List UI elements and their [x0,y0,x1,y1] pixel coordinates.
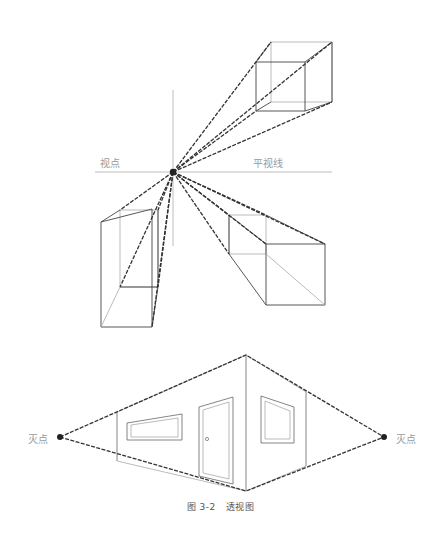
cube-upper-right [256,42,332,111]
perspective-figure: 视点 平视线 灭点 灭点 图 3-2透视图 [0,0,441,546]
viewpoint-dot [170,169,176,175]
door-knob-icon [205,437,208,440]
figure-caption: 图 3-2透视图 [0,500,441,513]
viewpoint-label: 视点 [100,155,120,170]
diagram-canvas [0,0,441,546]
bottom-vanishing-lines [60,437,384,491]
box-lower-left [101,209,158,327]
projector-line [120,172,173,210]
top-vanishing-lines [60,355,384,437]
right-vanishing-point-label: 灭点 [396,431,416,446]
right-window [261,396,294,443]
horizon-line-label: 平视线 [253,155,283,170]
figure-title: 透视图 [226,502,255,512]
left-vanishing-point-dot [57,434,63,440]
left-vanishing-point-label: 灭点 [28,431,48,446]
box-lower-right [229,215,325,305]
figure-number: 图 3-2 [187,502,216,512]
projector-line [173,42,332,172]
two-point-perspective-diagram [57,355,387,491]
one-point-perspective-diagram [95,42,332,327]
door [199,397,233,484]
right-vanishing-point-dot [381,434,387,440]
projector-line [173,172,325,244]
projector-line [120,172,173,287]
left-window [127,414,182,440]
